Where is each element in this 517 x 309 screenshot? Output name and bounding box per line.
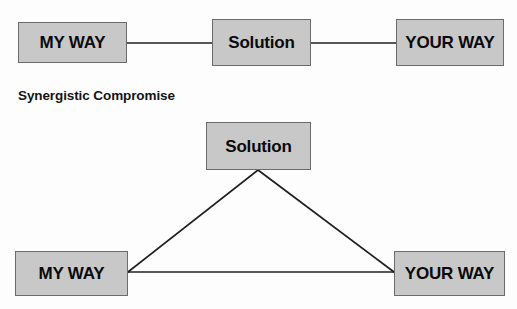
node-top-solution[interactable]: Solution — [212, 19, 311, 66]
node-bottom-my-way[interactable]: MY WAY — [15, 251, 128, 296]
node-bottom-my-way-label: MY WAY — [39, 265, 105, 282]
edge-bot-myway-solution — [128, 170, 258, 272]
node-bottom-your-way[interactable]: YOUR WAY — [394, 251, 505, 296]
node-top-my-way[interactable]: MY WAY — [18, 22, 127, 63]
node-top-solution-label: Solution — [228, 34, 294, 51]
node-top-my-way-label: MY WAY — [40, 34, 106, 51]
node-bottom-solution[interactable]: Solution — [206, 122, 311, 170]
node-top-your-way-label: YOUR WAY — [405, 34, 494, 51]
edge-bot-solution-yourway — [258, 170, 394, 272]
node-bottom-your-way-label: YOUR WAY — [405, 265, 494, 282]
node-top-your-way[interactable]: YOUR WAY — [396, 19, 504, 66]
section-caption: Synergistic Compromise — [18, 88, 175, 103]
diagram-canvas: MY WAY Solution YOUR WAY Synergistic Com… — [0, 0, 517, 309]
node-bottom-solution-label: Solution — [225, 138, 291, 155]
